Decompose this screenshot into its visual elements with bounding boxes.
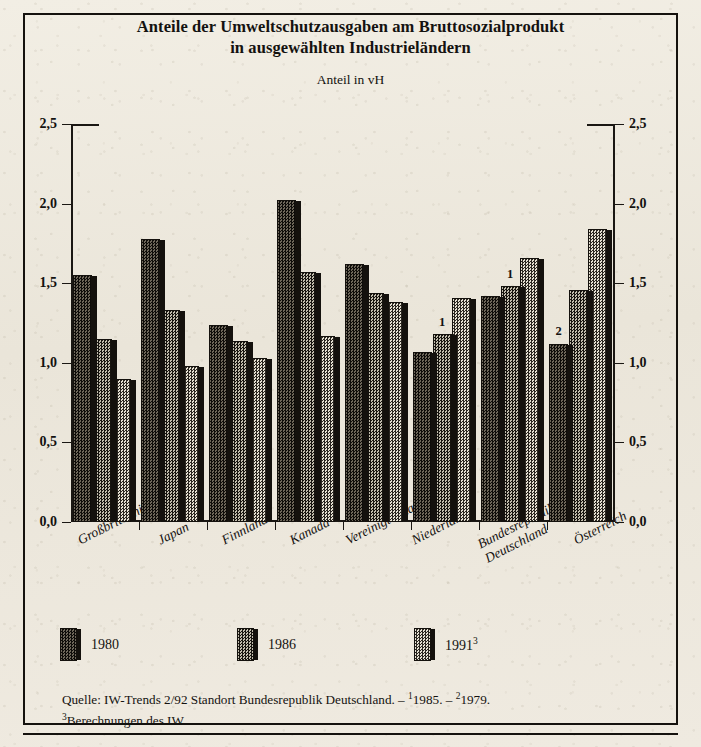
y-axis-label-right-1-5: 1,5	[629, 276, 647, 290]
y-axis-right	[613, 124, 615, 522]
bar-shadow	[130, 380, 136, 521]
chart-title-line-2: in ausgewählten Industrieländern	[230, 38, 471, 57]
legend-label-sup: 3	[473, 636, 478, 646]
bar-shadow	[431, 353, 437, 521]
bar-shadow	[179, 311, 185, 521]
x-axis-category-labels: GroßbritannienJapanFinnlandKanadaVereini…	[71, 524, 615, 624]
bar-shadow	[111, 340, 117, 521]
y-tick-left-2-0	[62, 204, 71, 205]
bar	[141, 239, 160, 522]
bar	[345, 264, 364, 522]
bar-group	[209, 124, 267, 522]
legend-swatch-shadow	[76, 629, 81, 660]
bar	[73, 275, 92, 522]
legend-label: 1986	[268, 637, 296, 653]
bar-shadow	[247, 342, 253, 521]
chart-title-line-1: Anteile der Umweltschutzausgaben am Brut…	[137, 17, 564, 36]
bar-footnote-marker: 2	[555, 325, 561, 338]
legend-item[interactable]: 1980	[60, 628, 119, 661]
source-note3: Berechnungen des IW.	[67, 713, 186, 728]
legend-item[interactable]: 1986	[237, 628, 296, 661]
bar-shadow	[451, 335, 457, 521]
y-tick-left-1-0	[62, 363, 71, 364]
bar-group	[141, 124, 199, 522]
bar-shadow	[266, 359, 272, 521]
legend-label: 1980	[91, 637, 119, 653]
y-axis-label-left-1-5: 1,5	[40, 276, 58, 290]
bar-shadow	[315, 273, 321, 521]
bar-shadow	[363, 265, 369, 521]
bar-shadow	[402, 303, 408, 521]
y-tick-right-1-5	[615, 283, 624, 284]
page-title: Anteile der Umweltschutzausgaben am Brut…	[0, 16, 701, 58]
medium-checker-swatch	[237, 628, 254, 661]
legend-swatch-shadow	[430, 629, 435, 660]
bar-group: 1	[413, 124, 471, 522]
legend: 1980198619913	[60, 628, 620, 668]
y-tick-left-0-0	[62, 522, 71, 523]
y-axis-label-right-2-0: 2,0	[629, 197, 647, 211]
bar	[277, 200, 296, 522]
y-tick-right-2-0	[615, 204, 624, 205]
y-tick-right-2-5	[615, 124, 624, 125]
title-block: Anteile der Umweltschutzausgaben am Brut…	[0, 16, 701, 88]
y-tick-left-0-5	[62, 442, 71, 443]
bar-footnote-marker: 1	[507, 268, 513, 281]
legend-swatch-shadow	[253, 629, 258, 660]
bar	[413, 352, 432, 522]
bar	[209, 325, 228, 522]
bar-footnote-marker: 1	[439, 316, 445, 329]
bar-shadow	[227, 326, 233, 521]
bottom-rule	[23, 733, 678, 735]
bar-shadow	[587, 291, 593, 521]
legend-label: 19913	[445, 636, 478, 654]
bar-shadow	[499, 297, 505, 521]
bar-shadow	[198, 367, 204, 521]
bar-group	[345, 124, 403, 522]
y-axis-label-left-0-0: 0,0	[40, 515, 58, 529]
source-note2: 1979.	[460, 692, 490, 707]
y-axis-label-left-1-0: 1,0	[40, 356, 58, 370]
dark-checker-swatch	[60, 628, 77, 661]
y-axis-label-left-2-0: 2,0	[40, 197, 58, 211]
bar: 2	[549, 344, 568, 522]
y-tick-right-0-5	[615, 442, 624, 443]
y-tick-left-1-5	[62, 283, 71, 284]
y-axis-label-left-2-5: 2,5	[40, 117, 58, 131]
source-note1: 1985. –	[413, 692, 456, 707]
bar-shadow	[538, 259, 544, 521]
light-checker-swatch	[414, 628, 431, 661]
bar-group	[73, 124, 131, 522]
y-axis-label-right-0-5: 0,5	[629, 435, 647, 449]
bar-shadow	[334, 337, 340, 521]
bar	[481, 296, 500, 522]
y-tick-right-1-0	[615, 363, 624, 364]
bar-shadow	[470, 299, 476, 521]
plot-area: 0,00,00,50,51,01,01,51,52,02,02,52,5 112	[71, 124, 615, 522]
bar-shadow	[91, 276, 97, 521]
bar-shadow	[567, 345, 573, 521]
y-axis-label-right-2-5: 2,5	[629, 117, 647, 131]
bar-shadow	[519, 287, 525, 521]
chart-subtitle: Anteil in vH	[0, 72, 701, 88]
bar-shadow	[383, 294, 389, 521]
y-axis-label-left-0-5: 0,5	[40, 435, 58, 449]
bar-group: 1	[481, 124, 539, 522]
bar-shadow	[159, 240, 165, 521]
x-axis-category-label: Japan	[155, 519, 192, 548]
bar-shadow	[606, 230, 612, 521]
x-axis-category-label-line: Japan	[155, 519, 191, 547]
y-axis-label-right-1-0: 1,0	[629, 356, 647, 370]
legend-item[interactable]: 19913	[414, 628, 478, 661]
y-tick-left-2-5	[62, 124, 71, 125]
y-axis-label-right-0-0: 0,0	[629, 515, 647, 529]
bar-group	[277, 124, 335, 522]
bar-group: 2	[549, 124, 607, 522]
source-note: Quelle: IW-Trends 2/92 Standort Bundesre…	[62, 688, 652, 730]
bar-shadow	[295, 201, 301, 521]
source-main: Quelle: IW-Trends 2/92 Standort Bundesre…	[62, 692, 408, 707]
